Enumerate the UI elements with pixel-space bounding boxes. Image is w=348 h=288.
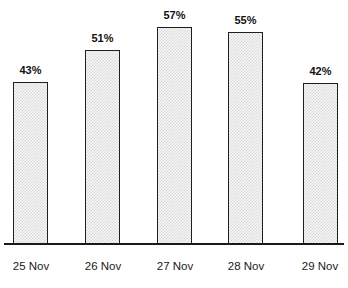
x-axis-label-2: 27 Nov <box>149 260 201 272</box>
bar-27-nov[interactable] <box>157 27 192 244</box>
bar-value-label: 55% <box>228 14 263 26</box>
plot-area: 43% 51% 57% 55% 42% <box>0 0 348 246</box>
bar-value-label: 57% <box>157 9 192 21</box>
bar-25-nov[interactable] <box>13 82 48 244</box>
x-axis-label-4: 29 Nov <box>294 260 346 272</box>
bar-value-label: 51% <box>85 32 120 44</box>
bar-28-nov[interactable] <box>228 32 263 244</box>
bar-26-nov[interactable] <box>85 50 120 244</box>
bar-value-label: 43% <box>13 64 48 76</box>
bar-29-nov[interactable] <box>303 83 338 244</box>
x-axis-line <box>4 243 344 245</box>
x-axis-label-3: 28 Nov <box>220 260 272 272</box>
bar-value-label: 42% <box>303 65 338 77</box>
bar-chart: 43% 51% 57% 55% 42% 25 Nov 26 Nov 27 Nov… <box>0 0 348 288</box>
x-axis-label-1: 26 Nov <box>77 260 129 272</box>
x-axis-label-0: 25 Nov <box>5 260 57 272</box>
